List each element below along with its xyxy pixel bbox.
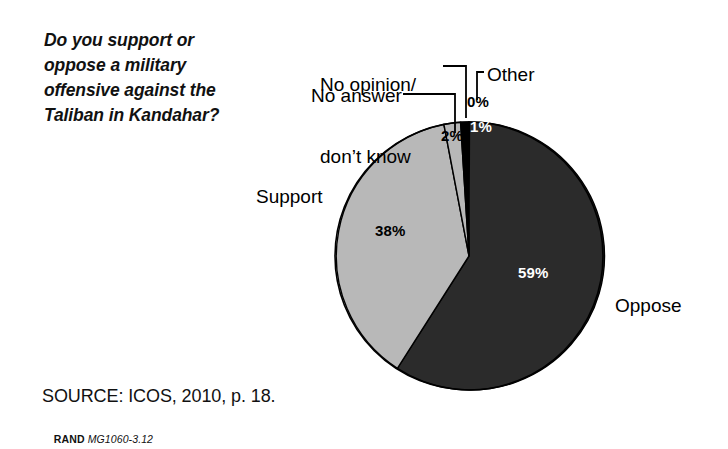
rand-figure-id: RAND MG1060-3.12 (42, 421, 153, 449)
rand-figure-number: MG1060-3.12 (88, 433, 153, 445)
label-no-opinion: No opinion/ don’t know (320, 25, 416, 217)
value-oppose: 59% (518, 264, 549, 281)
label-support: Support (256, 185, 323, 209)
label-other: Other (487, 63, 535, 87)
value-other: 0% (467, 93, 489, 110)
pie-slice-other (469, 122, 470, 256)
value-support: 38% (375, 222, 406, 239)
rand-wordmark: RAND (54, 433, 85, 445)
pie-chart-figure: Do you support or oppose a military offe… (0, 0, 728, 449)
source-note: SOURCE: ICOS, 2010, p. 18. (42, 386, 276, 407)
label-no-answer: No answer (311, 84, 402, 108)
value-no-opinion: 1% (470, 118, 492, 135)
label-oppose: Oppose (615, 294, 682, 318)
value-no-answer: 2% (441, 127, 463, 144)
label-no-opinion-line2: don’t know (320, 145, 416, 169)
